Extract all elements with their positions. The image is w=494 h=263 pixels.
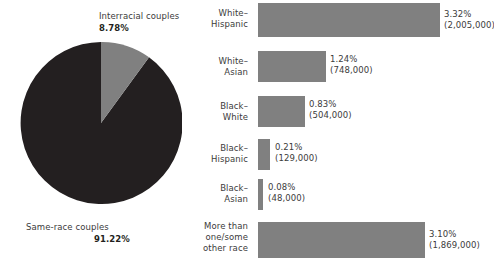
- bar-more-than-one-race: [258, 222, 425, 258]
- bar-label-black-asian: Black– Asian: [184, 183, 248, 205]
- bar-value-percent: 3.32%: [444, 9, 472, 19]
- bar-label-black-white: Black– White: [184, 101, 248, 123]
- pie-label-same-race: Same-race couples 91.22%: [26, 222, 130, 245]
- pie-label-interracial-name: Interracial couples: [99, 11, 179, 21]
- bar-label-black-hispanic: Black– Hispanic: [184, 143, 248, 165]
- bar-value-count: (748,000): [330, 65, 373, 76]
- bar-value-count: (2,005,000): [444, 20, 494, 31]
- bar-label-line: one/some: [205, 232, 248, 242]
- bar-value-black-asian: 0.08% (48,000): [268, 182, 305, 204]
- bar-label-line: More than: [204, 221, 248, 231]
- bar-chart-panel: White– Hispanic 3.32% (2,005,000) White–…: [196, 0, 494, 263]
- bar-label-line: White–: [218, 56, 248, 66]
- bar-row: White– Asian 1.24% (748,000): [196, 48, 494, 86]
- bar-black-white: [258, 96, 305, 127]
- bar-row: Black– Hispanic 0.21% (129,000): [196, 136, 494, 172]
- pie-label-interracial-percent: 8.78%: [99, 23, 179, 35]
- bar-value-white-asian: 1.24% (748,000): [330, 54, 373, 76]
- bar-value-percent: 0.21%: [275, 142, 303, 152]
- bar-value-black-white: 0.83% (504,000): [309, 99, 352, 121]
- bar-value-more-than-one-race: 3.10% (1,869,000): [429, 229, 480, 251]
- bar-value-percent: 1.24%: [330, 54, 358, 64]
- bar-value-count: (1,869,000): [429, 240, 480, 251]
- bar-label-white-asian: White– Asian: [184, 56, 248, 78]
- pie-chart-panel: Interracial couples 8.78% Same-race coup…: [0, 0, 196, 263]
- bar-value-count: (48,000): [268, 193, 305, 204]
- bar-label-line: Asian: [224, 67, 248, 77]
- bar-value-percent: 3.10%: [429, 229, 457, 239]
- bar-label-white-hispanic: White– Hispanic: [184, 8, 248, 30]
- bar-value-white-hispanic: 3.32% (2,005,000): [444, 9, 494, 31]
- bar-label-line: White–: [218, 8, 248, 18]
- bar-black-asian: [258, 179, 263, 210]
- couples-pie-chart: [20, 42, 182, 204]
- pie-label-interracial: Interracial couples 8.78%: [99, 11, 179, 34]
- bar-label-more-than-one-race: More than one/some other race: [184, 221, 248, 254]
- bar-label-line: Hispanic: [211, 154, 248, 164]
- bar-label-line: Black–: [220, 101, 248, 111]
- bar-white-hispanic: [258, 3, 440, 37]
- bar-row: Black– White 0.83% (504,000): [196, 93, 494, 131]
- pie-label-same-race-percent: 91.22%: [26, 234, 130, 246]
- bar-white-asian: [258, 51, 326, 82]
- bar-label-line: Asian: [224, 194, 248, 204]
- bar-label-line: other race: [203, 243, 248, 253]
- bar-value-black-hispanic: 0.21% (129,000): [275, 142, 318, 164]
- bar-value-percent: 0.83%: [309, 99, 337, 109]
- bar-label-line: Black–: [220, 183, 248, 193]
- bar-value-count: (129,000): [275, 153, 318, 164]
- bar-value-percent: 0.08%: [268, 182, 296, 192]
- bar-label-line: White: [223, 112, 248, 122]
- bar-value-count: (504,000): [309, 110, 352, 121]
- bar-row: White– Hispanic 3.32% (2,005,000): [196, 0, 494, 40]
- bar-label-line: Hispanic: [211, 19, 248, 29]
- bar-row: More than one/some other race 3.10% (1,8…: [196, 218, 494, 263]
- bar-row: Black– Asian 0.08% (48,000): [196, 176, 494, 212]
- interracial-couples-infographic: Interracial couples 8.78% Same-race coup…: [0, 0, 494, 263]
- bar-black-hispanic: [258, 139, 270, 170]
- pie-label-same-race-name: Same-race couples: [26, 222, 109, 232]
- bar-label-line: Black–: [220, 143, 248, 153]
